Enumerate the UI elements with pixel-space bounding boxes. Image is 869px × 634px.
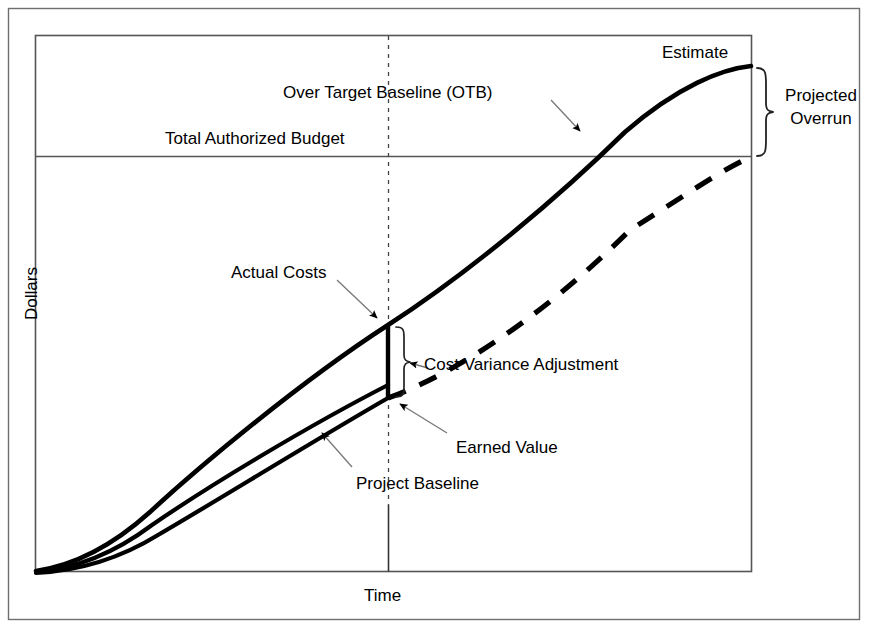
- project-baseline-label: Project Baseline: [356, 474, 479, 494]
- actual-costs-leader-line: [337, 280, 377, 318]
- projected-overrun-label: Projected Overrun: [778, 84, 864, 130]
- earned-value-label: Earned Value: [456, 438, 558, 458]
- projected-overrun-brace: [757, 68, 773, 156]
- x-axis-title: Time: [364, 586, 401, 606]
- actual-costs-label: Actual Costs: [231, 263, 326, 283]
- total-authorized-budget-label: Total Authorized Budget: [165, 129, 345, 149]
- evm-over-target-baseline-figure: Estimate Over Target Baseline (OTB) Tota…: [0, 0, 869, 634]
- project-baseline-curve: [36, 385, 388, 572]
- earned-value-leader-line: [400, 404, 447, 433]
- estimate-label: Estimate: [662, 43, 728, 63]
- projected-overrun-line-1: Projected: [785, 86, 857, 105]
- projected-overrun-line-2: Overrun: [790, 109, 851, 128]
- project-baseline-leader-line: [322, 433, 352, 467]
- cost-variance-adjustment-label: Cost Variance Adjustment: [424, 355, 618, 375]
- y-axis-title: Dollars: [22, 267, 42, 320]
- actual-costs-otb-curve: [36, 66, 751, 571]
- over-target-baseline-label: Over Target Baseline (OTB): [283, 83, 492, 103]
- cost-variance-brace: [396, 327, 410, 397]
- otb-leader-line: [551, 100, 580, 131]
